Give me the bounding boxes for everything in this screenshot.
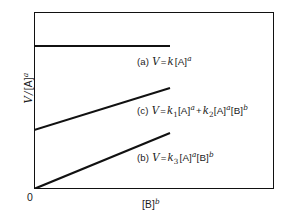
- curve-b-tag: (b): [137, 152, 149, 163]
- curve-a-bracket-a: [A]: [175, 56, 187, 67]
- curve-c-plus: +: [195, 105, 203, 116]
- curve-b-bracket-b: [B]: [197, 152, 209, 163]
- curve-a-exponent-a: a: [187, 54, 192, 63]
- curve-a-tag: (a): [137, 56, 149, 67]
- curve-b-v: V: [152, 152, 160, 163]
- curve-c-bracket-a2: [A]: [214, 105, 226, 116]
- curve-label-a: (a)V=k[A]a: [137, 57, 192, 67]
- y-axis-slash: /: [23, 90, 34, 96]
- x-axis-bracket-b: [B]: [142, 199, 155, 210]
- curve-c-bracket-a1: [A]: [178, 105, 190, 116]
- curve-label-b: (b)V=k3[A]a[B]b: [137, 153, 214, 163]
- curve-b-bracket-a: [A]: [180, 152, 192, 163]
- figure-canvas: V/[A]a [B]b 0 (a)V=k[A]a (c)V=k1[A]a+k2[…: [0, 0, 291, 224]
- curve-c-bracket-b: [B]: [231, 105, 243, 116]
- curve-b-subscript-3: 3: [174, 157, 179, 166]
- y-axis-bracket-a: [A]: [23, 77, 34, 90]
- x-axis-title: [B]b: [142, 198, 160, 210]
- curve-c-equals: =: [159, 105, 167, 116]
- curve-b-exponent-b: b: [209, 150, 214, 159]
- curve-c-tag: (c): [137, 105, 149, 116]
- y-axis-title: V/[A]a: [22, 48, 34, 128]
- curve-a-v: V: [152, 56, 160, 67]
- curve-a-k: k: [167, 56, 173, 67]
- x-axis-exponent-b: b: [155, 197, 160, 206]
- curve-c-exponent-b: b: [243, 103, 248, 112]
- origin-label: 0: [27, 191, 33, 203]
- curve-label-c: (c)V=k1[A]a+k2[A]a[B]b: [137, 106, 248, 116]
- y-axis-v-symbol: V: [23, 96, 34, 104]
- y-axis-exponent-a: a: [21, 73, 30, 78]
